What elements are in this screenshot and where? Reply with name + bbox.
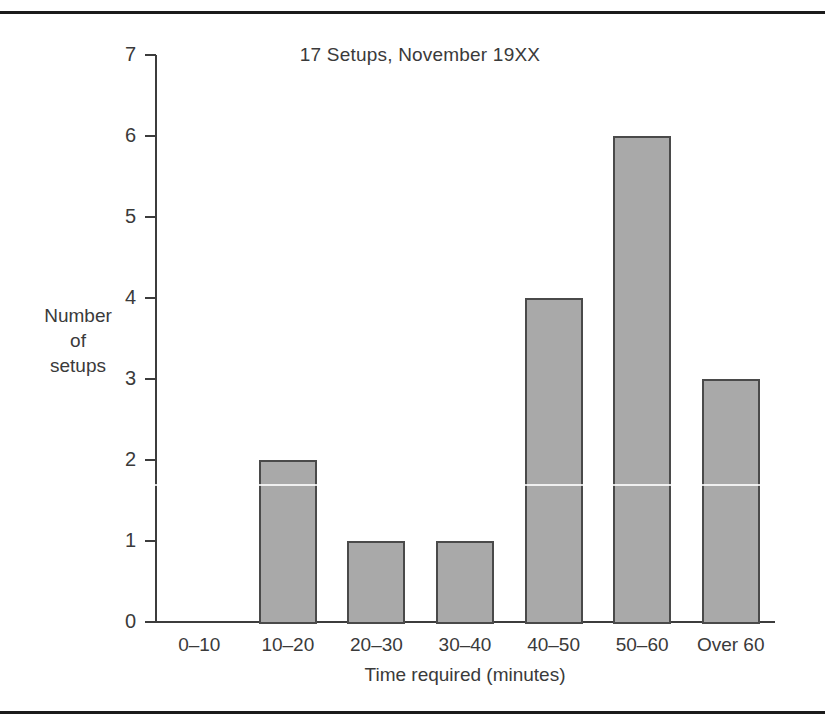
y-axis-title-line-3: setups <box>22 353 134 378</box>
x-axis-title: Time required (minutes) <box>155 664 775 686</box>
y-axis-tick-5 <box>145 216 156 218</box>
x-axis-tick-label-over-60: Over 60 <box>686 634 775 656</box>
y-axis-title-line-2: of <box>22 328 134 353</box>
y-axis-tick-1 <box>145 540 156 542</box>
bar-40-50 <box>525 298 583 624</box>
x-axis-tick-label-20-30: 20–30 <box>332 634 421 656</box>
x-axis-tick-label-30-40: 30–40 <box>421 634 510 656</box>
x-axis-tick-label-10-20: 10–20 <box>244 634 333 656</box>
bar-10-20 <box>259 460 317 624</box>
x-axis-tick-label-50-60: 50–60 <box>598 634 687 656</box>
y-axis-line <box>155 55 157 623</box>
y-axis-tick-7 <box>145 54 156 56</box>
x-axis-tick-label-40-50: 40–50 <box>509 634 598 656</box>
y-axis-tick-label-5: 5 <box>100 206 136 226</box>
chart-title: 17 Setups, November 19XX <box>180 44 660 66</box>
y-axis-tick-label-7: 7 <box>100 44 136 64</box>
y-axis-tick-label-1: 1 <box>100 530 136 550</box>
y-axis-title-line-1: Number <box>22 303 134 328</box>
y-axis-tick-label-6: 6 <box>100 125 136 145</box>
bar-50-60 <box>613 136 671 624</box>
scan-artifact-line <box>155 484 775 486</box>
x-axis-tick-label-0-10: 0–10 <box>155 634 244 656</box>
y-axis-tick-label-0: 0 <box>100 611 136 631</box>
bar-chart: 17 Setups, November 19XX 01234567 0–1010… <box>0 0 825 726</box>
bar-20-30 <box>347 541 405 624</box>
y-axis-tick-4 <box>145 297 156 299</box>
y-axis-tick-3 <box>145 378 156 380</box>
y-axis-tick-2 <box>145 459 156 461</box>
bar-over-60 <box>702 379 760 624</box>
y-axis-title: Number of setups <box>22 303 134 378</box>
bar-30-40 <box>436 541 494 624</box>
y-axis-tick-0 <box>145 621 156 623</box>
y-axis-tick-6 <box>145 135 156 137</box>
figure-page: 17 Setups, November 19XX 01234567 0–1010… <box>0 0 825 726</box>
y-axis-tick-label-2: 2 <box>100 449 136 469</box>
